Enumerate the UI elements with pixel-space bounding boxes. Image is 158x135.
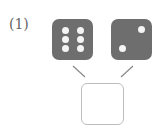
right-connector-line xyxy=(121,66,133,77)
left-connector-line xyxy=(73,66,85,77)
answer-box[interactable] xyxy=(81,83,124,125)
connector-lines xyxy=(0,0,158,135)
